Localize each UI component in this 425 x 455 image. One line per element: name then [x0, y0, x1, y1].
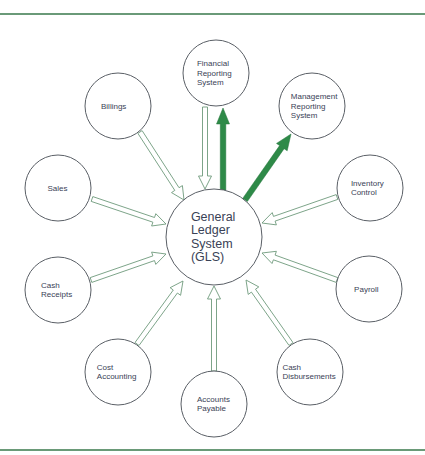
node-label-line: System: [291, 111, 318, 120]
arrow-gls-to-management-reporting-system: [243, 134, 291, 202]
node-billings: Billings: [85, 73, 151, 139]
arrow-billings-to-gls: [138, 131, 184, 200]
node-label-line: (GLS): [191, 250, 224, 264]
node-label-line: Disbursements: [282, 372, 335, 381]
arrow-financial-reporting-system-to-gls: [199, 107, 212, 189]
node-label-line: Billings: [101, 102, 126, 111]
arrow-cash-receipts-to-gls: [90, 252, 166, 282]
node-label-line: Cash: [41, 281, 60, 290]
node-management-reporting-system: ManagementReportingSystem: [279, 73, 345, 139]
node-label-line: Receipts: [41, 290, 72, 299]
node-cash-receipts: CashReceipts: [25, 257, 91, 323]
arrow-accounts-payable-to-gls: [208, 286, 221, 371]
node-label-line: General: [191, 210, 235, 224]
node-label-line: Cost: [97, 363, 114, 372]
node-label-line: System: [197, 78, 224, 87]
arrow-sales-to-gls: [91, 197, 166, 226]
node-gls: GeneralLedgerSystem(GLS): [166, 189, 262, 285]
node-payroll: Payroll: [336, 256, 402, 322]
arrow-inventory-control-to-gls: [262, 195, 338, 225]
node-label-line: Payroll: [354, 285, 379, 294]
node-label-line: Inventory: [351, 179, 384, 188]
node-label-line: System: [191, 237, 233, 251]
node-label-line: Payable: [197, 404, 226, 413]
arrow-cost-accounting-to-gls: [135, 281, 183, 346]
node-label-line: Ledger: [191, 223, 230, 237]
node-label-line: Reporting: [197, 69, 232, 78]
node-sales: Sales: [25, 155, 91, 221]
arrow-cash-disbursements-to-gls: [246, 280, 293, 345]
gls-dataflow-diagram: FinancialReportingSystemManagementReport…: [0, 0, 425, 455]
nodes-layer: FinancialReportingSystemManagementReport…: [25, 40, 403, 437]
node-label-line: Sales: [47, 184, 67, 193]
node-accounts-payable: AccountsPayable: [181, 371, 247, 437]
arrow-gls-to-financial-reporting-system: [217, 108, 230, 190]
node-label-line: Reporting: [291, 102, 326, 111]
node-label-line: Financial: [197, 59, 229, 68]
node-label-line: Accounts: [197, 395, 230, 404]
node-financial-reporting-system: FinancialReportingSystem: [183, 40, 249, 106]
node-label-line: Management: [291, 92, 338, 101]
node-cash-disbursements: CashDisbursements: [277, 339, 343, 405]
node-label-line: Control: [351, 188, 377, 197]
node-cost-accounting: CostAccounting: [85, 339, 151, 405]
arrow-payroll-to-gls: [262, 251, 338, 282]
node-label-line: Accounting: [97, 372, 137, 381]
node-label-line: Cash: [282, 363, 301, 372]
node-inventory-control: InventoryControl: [337, 155, 403, 221]
